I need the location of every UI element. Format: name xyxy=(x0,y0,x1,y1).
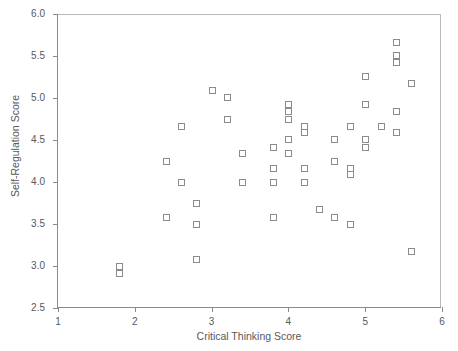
y-axis-tick-label: 2.5 xyxy=(31,301,45,314)
data-point-marker xyxy=(224,94,231,101)
x-axis-tick: 3 xyxy=(212,307,213,312)
y-axis-tick-label: 4.0 xyxy=(31,175,45,188)
data-point-marker xyxy=(393,39,400,46)
x-axis-tick-label: 5 xyxy=(355,315,375,328)
y-axis-tick: 5.5 xyxy=(53,56,58,57)
data-point-marker xyxy=(178,123,185,130)
y-axis-tick-label: 5.5 xyxy=(31,49,45,62)
data-point-marker xyxy=(209,87,216,94)
data-point-marker xyxy=(270,214,277,221)
data-point-marker xyxy=(362,101,369,108)
data-point-marker xyxy=(193,256,200,263)
x-axis-tick: 2 xyxy=(135,307,136,312)
data-point-marker xyxy=(285,108,292,115)
data-point-marker xyxy=(239,150,246,157)
data-point-marker xyxy=(393,59,400,66)
data-point-marker xyxy=(362,73,369,80)
data-point-marker xyxy=(285,101,292,108)
scatter-plot-figure: 2.53.03.54.04.55.05.56.0 123456 Critical… xyxy=(0,0,458,351)
x-axis-tick: 6 xyxy=(442,307,443,312)
data-point-marker xyxy=(163,158,170,165)
data-point-marker xyxy=(270,165,277,172)
plot-area: 2.53.03.54.04.55.05.56.0 123456 xyxy=(57,14,441,308)
data-point-marker xyxy=(178,179,185,186)
y-axis-tick: 6.0 xyxy=(53,14,58,15)
y-axis-tick-label: 4.5 xyxy=(31,133,45,146)
y-axis-tick: 4.0 xyxy=(53,182,58,183)
y-axis-tick: 4.5 xyxy=(53,140,58,141)
data-point-marker xyxy=(301,129,308,136)
data-point-marker xyxy=(347,171,354,178)
data-point-marker xyxy=(285,116,292,123)
data-point-marker xyxy=(362,144,369,151)
y-axis-tick-label: 3.0 xyxy=(31,259,45,272)
y-axis-tick-label: 5.0 xyxy=(31,91,45,104)
data-point-marker xyxy=(331,158,338,165)
x-axis-tick: 1 xyxy=(58,307,59,312)
data-point-marker xyxy=(362,136,369,143)
data-point-marker xyxy=(393,108,400,115)
y-axis-tick: 3.0 xyxy=(53,266,58,267)
data-point-marker xyxy=(163,214,170,221)
y-axis-tick-label: 6.0 xyxy=(31,7,45,20)
data-point-marker xyxy=(285,136,292,143)
data-point-marker xyxy=(301,165,308,172)
data-point-marker xyxy=(270,179,277,186)
y-axis-tick: 3.5 xyxy=(53,224,58,225)
x-axis-tick-label: 2 xyxy=(125,315,145,328)
x-axis-tick-label: 1 xyxy=(48,315,68,328)
data-point-marker xyxy=(316,206,323,213)
data-point-marker xyxy=(408,80,415,87)
data-point-marker xyxy=(331,136,338,143)
y-axis-tick-label: 3.5 xyxy=(31,217,45,230)
data-point-marker xyxy=(393,129,400,136)
x-axis-tick: 5 xyxy=(365,307,366,312)
x-axis-tick-label: 6 xyxy=(432,315,452,328)
data-point-marker xyxy=(224,116,231,123)
data-point-marker xyxy=(193,200,200,207)
data-point-marker xyxy=(270,144,277,151)
data-point-marker xyxy=(285,150,292,157)
x-axis-tick-label: 4 xyxy=(278,315,298,328)
data-point-marker xyxy=(239,179,246,186)
data-point-marker xyxy=(331,214,338,221)
x-axis-tick-label: 3 xyxy=(202,315,222,328)
data-point-marker xyxy=(347,123,354,130)
data-point-marker xyxy=(378,123,385,130)
x-axis-title: Critical Thinking Score xyxy=(57,330,441,342)
data-point-marker xyxy=(408,248,415,255)
data-point-marker xyxy=(301,179,308,186)
y-axis-title: Self-Regulation Score xyxy=(9,71,21,221)
data-point-marker xyxy=(347,221,354,228)
x-axis-tick: 4 xyxy=(288,307,289,312)
data-point-marker xyxy=(116,270,123,277)
y-axis-tick: 5.0 xyxy=(53,98,58,99)
data-point-marker xyxy=(193,221,200,228)
